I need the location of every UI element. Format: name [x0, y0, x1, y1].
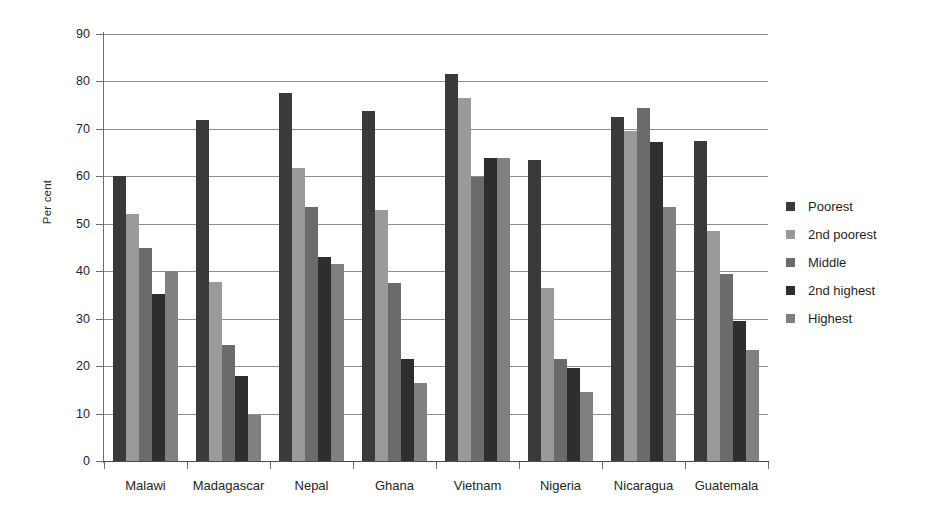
bar [733, 321, 746, 461]
bar-group [436, 34, 519, 461]
bar [292, 168, 305, 461]
y-axis-tick-label: 50 [46, 217, 90, 231]
bar [746, 350, 759, 461]
x-axis-tick [353, 462, 354, 469]
bar [650, 142, 663, 461]
bar-group [270, 34, 353, 461]
x-axis-tick [187, 462, 188, 469]
bar [458, 98, 471, 461]
bar [694, 141, 707, 461]
bar [248, 415, 261, 461]
bar-group [685, 34, 768, 461]
legend-item[interactable]: Middle [786, 248, 926, 276]
y-axis-tick-label: 20 [46, 359, 90, 373]
bar [611, 117, 624, 461]
bar [196, 120, 209, 461]
bar [139, 248, 152, 462]
bar-group [104, 34, 187, 461]
bar [624, 131, 637, 461]
bar [414, 383, 427, 461]
y-axis-tick [96, 81, 104, 82]
bar [235, 376, 248, 461]
bar [484, 158, 497, 461]
bar-group [602, 34, 685, 461]
legend-label: Poorest [808, 199, 853, 214]
y-axis-tick [96, 271, 104, 272]
plot-area [104, 34, 768, 461]
y-axis-tick [96, 366, 104, 367]
bar [279, 93, 292, 461]
x-axis-tick [104, 462, 105, 469]
y-axis-tick-label: 40 [46, 264, 90, 278]
legend-label: Middle [808, 255, 846, 270]
bar [126, 214, 139, 461]
x-axis-category-label: Malawi [125, 478, 165, 493]
y-axis-tick [96, 461, 104, 462]
bar [113, 176, 126, 461]
bar [165, 271, 178, 461]
x-axis-category-label: Guatemala [695, 478, 759, 493]
bar [152, 294, 165, 461]
legend-item[interactable]: 2nd highest [786, 276, 926, 304]
y-axis-tick [96, 224, 104, 225]
y-axis-tick-label: 60 [46, 169, 90, 183]
bar [331, 264, 344, 461]
x-axis-category-label: Madagascar [193, 478, 265, 493]
bar [554, 359, 567, 461]
bar [663, 207, 676, 461]
x-axis-category-label: Ghana [375, 478, 414, 493]
y-axis-tick [96, 319, 104, 320]
y-axis-tick-label: 30 [46, 312, 90, 326]
bar-group [187, 34, 270, 461]
bar [541, 288, 554, 461]
x-axis-tick [768, 462, 769, 469]
bar-chart: Per cent 0102030405060708090 MalawiMadag… [0, 0, 928, 531]
bar [209, 282, 222, 461]
bar [362, 111, 375, 461]
x-axis-tick [602, 462, 603, 469]
y-axis-tick-label: 80 [46, 74, 90, 88]
legend-swatch-icon [786, 202, 795, 211]
bar [375, 210, 388, 461]
bar [707, 231, 720, 461]
y-axis-tick-labels: 0102030405060708090 [42, 0, 90, 531]
legend-swatch-icon [786, 286, 795, 295]
x-axis-category-label: Nicaragua [614, 478, 673, 493]
y-axis-tick-label: 90 [46, 27, 90, 41]
bar [637, 108, 650, 461]
y-axis-tick [96, 176, 104, 177]
legend-label: 2nd highest [808, 283, 875, 298]
x-axis-tick [270, 462, 271, 469]
legend-item[interactable]: 2nd poorest [786, 220, 926, 248]
legend-swatch-icon [786, 230, 795, 239]
bar [567, 368, 580, 461]
legend-swatch-icon [786, 314, 795, 323]
legend-label: 2nd poorest [808, 227, 877, 242]
bar [580, 392, 593, 461]
bar [318, 257, 331, 461]
bar [305, 207, 318, 461]
x-axis-tick [436, 462, 437, 469]
y-axis-tick [96, 129, 104, 130]
x-axis-category-label: Vietnam [454, 478, 501, 493]
bar [401, 359, 414, 461]
legend-swatch-icon [786, 258, 795, 267]
y-axis-tick-label: 10 [46, 407, 90, 421]
y-axis-tick [96, 414, 104, 415]
legend-label: Highest [808, 311, 852, 326]
bar [445, 74, 458, 461]
y-axis-tick-label: 0 [46, 454, 90, 468]
chart-legend: Poorest2nd poorestMiddle2nd highestHighe… [786, 192, 926, 332]
x-axis-category-label: Nepal [295, 478, 329, 493]
y-axis-tick [96, 34, 104, 35]
bar-group [519, 34, 602, 461]
bar [720, 274, 733, 461]
legend-item[interactable]: Poorest [786, 192, 926, 220]
legend-item[interactable]: Highest [786, 304, 926, 332]
bar [528, 160, 541, 461]
x-axis-tick [519, 462, 520, 469]
bar [222, 345, 235, 461]
bar [471, 177, 484, 461]
bar-group [353, 34, 436, 461]
y-axis-tick-label: 70 [46, 122, 90, 136]
